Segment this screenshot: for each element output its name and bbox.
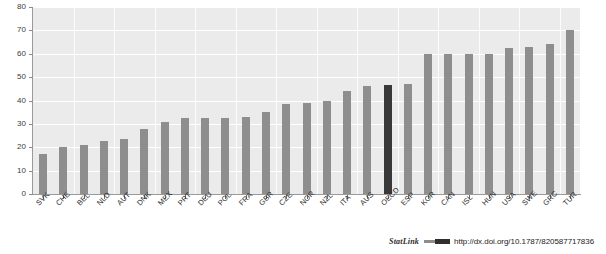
y-tick-label-40: 40 [0,97,26,105]
bar-gbr [262,112,270,194]
bar-nzl [323,101,331,195]
clipped-chart-title [0,0,606,2]
bar-bel [80,145,88,194]
y-tick-mark-0 [29,194,33,195]
statlink-url[interactable]: http://dx.doi.org/10.1787/820587717836 [454,237,594,246]
y-tick-mark-50 [29,77,33,78]
y-tick-label-50: 50 [0,73,26,81]
bar-hun [485,54,493,194]
bar-mex [161,122,169,194]
y-tick-label-70: 70 [0,26,26,34]
bar-usa [505,48,513,194]
bar-svk [39,154,47,194]
bar-deu [201,118,209,194]
bar-ita [343,91,351,194]
statlink-label: StatLink [389,237,419,246]
x-axis-category-labels: SVKCHEBELNLDAUTDNKMEXPRTDEUPOLFRAGBRCZEN… [0,197,606,237]
x-label-isl: ISL [460,193,475,208]
x-label-ita: ITA [338,193,352,207]
bar-isl [465,54,473,194]
bar-che [59,147,67,194]
y-tick-mark-80 [29,7,33,8]
bar-nor [303,103,311,194]
bar-grc [546,44,554,194]
y-tick-label-30: 30 [0,120,26,128]
bar-aut [120,139,128,194]
statlink-icon [424,238,450,245]
bar-dnk [140,129,148,194]
bar-esp [404,84,412,194]
bar-aus [363,86,371,194]
y-tick-mark-30 [29,124,33,125]
bar-kor [424,54,432,194]
bar-prt [181,118,189,194]
bar-cze [282,104,290,194]
bar-swe [525,47,533,194]
bar-oecd [384,85,392,194]
y-tick-mark-60 [29,54,33,55]
chart-figure: 01020304050607080 SVKCHEBELNLDAUTDNKMEXP… [0,0,606,254]
bar-fra [242,117,250,194]
bar-can [444,54,452,194]
bar-pol [221,118,229,194]
bar-nld [100,141,108,194]
y-tick-label-60: 60 [0,50,26,58]
bar-tur [566,30,574,194]
bars-layer [33,7,580,194]
statlink-row: StatLink http://dx.doi.org/10.1787/82058… [389,234,594,248]
y-tick-mark-10 [29,171,33,172]
y-tick-label-10: 10 [0,167,26,175]
y-tick-mark-70 [29,30,33,31]
y-tick-label-80: 80 [0,3,26,11]
y-tick-mark-40 [29,101,33,102]
y-tick-mark-20 [29,147,33,148]
y-tick-label-20: 20 [0,143,26,151]
